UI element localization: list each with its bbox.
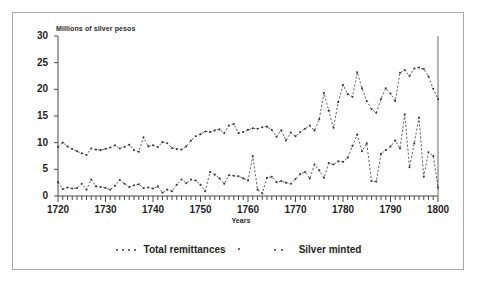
x-tick-label: 1800 [418, 204, 458, 215]
data-point-silver-minted [128, 186, 130, 188]
data-point-total-remittances [399, 72, 401, 74]
data-point-total-remittances [309, 125, 311, 127]
data-point-silver-minted [214, 174, 216, 176]
data-point-total-remittances [337, 101, 339, 103]
data-point-silver-minted [375, 181, 377, 183]
data-point-total-remittances [404, 69, 406, 71]
data-point-silver-minted [370, 180, 372, 182]
data-point-total-remittances [76, 150, 78, 152]
data-point-total-remittances [323, 92, 325, 94]
data-point-silver-minted [228, 174, 230, 176]
data-point-total-remittances [375, 112, 377, 114]
data-point-total-remittances [394, 100, 396, 102]
data-point-silver-minted [418, 117, 420, 119]
data-point-total-remittances [366, 100, 368, 102]
data-point-silver-minted [285, 182, 287, 184]
data-point-total-remittances [104, 148, 106, 150]
legend-label-total-remittances: Total remittances [144, 244, 226, 255]
y-tick-label: 30 [26, 30, 48, 41]
data-point-total-remittances [223, 132, 225, 134]
data-point-total-remittances [408, 75, 410, 77]
data-point-total-remittances [218, 128, 220, 130]
data-point-total-remittances [347, 93, 349, 95]
data-point-total-remittances [199, 133, 201, 135]
data-point-silver-minted [190, 178, 192, 180]
data-point-total-remittances [95, 149, 97, 151]
legend-item-silver-minted: Silver minted [270, 244, 362, 255]
data-point-silver-minted [180, 178, 182, 180]
data-point-total-remittances [123, 146, 125, 148]
data-point-silver-minted [337, 160, 339, 162]
data-point-silver-minted [423, 176, 425, 178]
data-point-silver-minted [380, 153, 382, 155]
data-point-silver-minted [408, 166, 410, 168]
legend-item-total-remittances: Total remittances [115, 244, 240, 255]
chart-figure: Millions of silver pesos Years 051015202… [0, 0, 482, 285]
data-point-total-remittances [114, 144, 116, 146]
data-point-total-remittances [370, 108, 372, 110]
data-point-silver-minted [256, 189, 258, 191]
data-point-silver-minted [318, 169, 320, 171]
data-point-total-remittances [256, 128, 258, 130]
data-point-total-remittances [437, 98, 439, 100]
data-point-silver-minted [294, 178, 296, 180]
y-tick-label: 10 [26, 137, 48, 148]
data-point-total-remittances [318, 118, 320, 120]
x-tick-label: 1750 [181, 204, 221, 215]
data-point-silver-minted [114, 185, 116, 187]
data-point-silver-minted [204, 190, 206, 192]
data-point-silver-minted [147, 186, 149, 188]
dotted-marker-icon-2 [270, 245, 292, 254]
data-point-silver-minted [76, 187, 78, 189]
data-point-total-remittances [171, 147, 173, 149]
data-point-silver-minted [185, 182, 187, 184]
data-point-silver-minted [299, 173, 301, 175]
data-point-total-remittances [214, 129, 216, 131]
data-point-total-remittances [85, 154, 87, 156]
y-tick-label: 5 [26, 163, 48, 174]
y-tick-label: 20 [26, 83, 48, 94]
data-point-total-remittances [342, 84, 344, 86]
x-tick-label: 1760 [228, 204, 268, 215]
data-point-total-remittances [204, 130, 206, 132]
data-point-total-remittances [128, 144, 130, 146]
data-point-silver-minted [85, 189, 87, 191]
data-point-total-remittances [294, 135, 296, 137]
data-point-total-remittances [209, 131, 211, 133]
data-point-total-remittances [432, 88, 434, 90]
data-point-silver-minted [123, 183, 125, 185]
data-point-total-remittances [252, 127, 254, 129]
data-point-silver-minted [266, 177, 268, 179]
x-tick-label: 1730 [86, 204, 126, 215]
data-point-total-remittances [389, 93, 391, 95]
legend-label-silver-minted: Silver minted [299, 244, 362, 255]
data-point-total-remittances [418, 66, 420, 68]
data-point-total-remittances [152, 144, 154, 146]
data-point-total-remittances [100, 149, 102, 151]
data-point-silver-minted [389, 145, 391, 147]
data-point-total-remittances [290, 131, 292, 133]
data-point-silver-minted [347, 157, 349, 159]
data-point-total-remittances [304, 128, 306, 130]
data-point-silver-minted [237, 175, 239, 177]
data-point-silver-minted [209, 171, 211, 173]
data-point-silver-minted [161, 192, 163, 194]
data-point-silver-minted [57, 181, 59, 183]
data-point-total-remittances [142, 136, 144, 138]
data-point-silver-minted [152, 187, 154, 189]
data-point-total-remittances [90, 147, 92, 149]
data-point-total-remittances [266, 126, 268, 128]
y-axis-title: Millions of silver pesos [56, 25, 135, 32]
data-point-silver-minted [166, 189, 168, 191]
data-point-silver-minted [342, 161, 344, 163]
data-point-silver-minted [100, 186, 102, 188]
data-point-silver-minted [432, 155, 434, 157]
data-point-silver-minted [328, 162, 330, 164]
data-point-silver-minted [171, 190, 173, 192]
data-point-silver-minted [385, 149, 387, 151]
data-point-total-remittances [66, 145, 68, 147]
data-point-total-remittances [176, 148, 178, 150]
data-point-total-remittances [157, 146, 159, 148]
data-point-total-remittances [423, 68, 425, 70]
data-point-total-remittances [275, 136, 277, 138]
